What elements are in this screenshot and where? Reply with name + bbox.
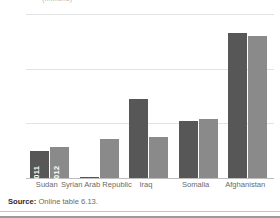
- x-axis-label: Sudan: [36, 180, 58, 189]
- bar-2012: [248, 36, 267, 178]
- source-text: Online table 6.13.: [38, 197, 98, 206]
- bar-2012: 2012: [50, 147, 69, 178]
- bar-2012: [199, 119, 218, 178]
- x-axis-label: Iraq: [139, 180, 152, 189]
- bar-2011: [179, 121, 198, 178]
- chart-title-text: (millions): [42, 0, 72, 3]
- x-axis-category-labels: SudanSyrian Arab RepublicIraqSomaliaAfgh…: [26, 180, 274, 192]
- chart-title-cropped: (millions): [0, 0, 280, 7]
- bar-group: [224, 14, 274, 178]
- bar-2011: [129, 99, 148, 178]
- bar-group: [175, 14, 225, 178]
- x-axis-label: Syrian Arab Republic: [61, 180, 132, 189]
- bar-group: 20112012: [26, 14, 76, 178]
- bar-2011: [228, 33, 247, 178]
- bar-2012: [149, 137, 168, 178]
- bar-group: [125, 14, 175, 178]
- bar-series-container: 20112012: [26, 14, 274, 178]
- source-label: Source:: [8, 197, 36, 206]
- x-axis-label: Somalia: [182, 180, 209, 189]
- bar-2011: 2011: [30, 151, 49, 178]
- divider-rule-bottom: [0, 216, 280, 218]
- source-note: Source: Online table 6.13.: [8, 197, 98, 206]
- x-axis-label: Afghanistan: [225, 180, 265, 189]
- bar-2011: [80, 177, 99, 178]
- chart-figure: (millions) 0123 20112012 SudanSyrian Ara…: [0, 0, 280, 218]
- bar-2012: [100, 139, 119, 178]
- divider-rule-top: [0, 211, 280, 212]
- bar-group: [76, 14, 126, 178]
- plot-area: 0123 20112012: [26, 14, 274, 178]
- gridline-0: [26, 178, 274, 179]
